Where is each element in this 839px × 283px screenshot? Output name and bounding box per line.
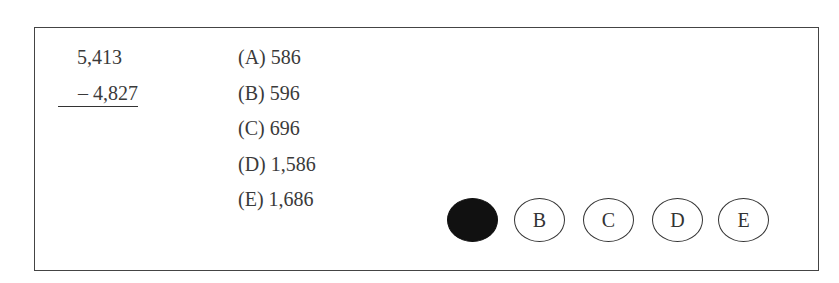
answer-bubble-a[interactable]: A: [447, 198, 498, 242]
choice-b: (B) 596: [238, 81, 300, 105]
question-box: [34, 27, 819, 271]
answer-bubble-b[interactable]: B: [514, 198, 565, 242]
choice-c: (C) 696: [238, 116, 300, 140]
minuend: 5,413: [77, 45, 122, 69]
answer-bubble-e[interactable]: E: [718, 198, 769, 242]
answer-bubble-c[interactable]: C: [583, 198, 634, 242]
choice-d: (D) 1,586: [238, 152, 316, 176]
choice-e: (E) 1,686: [238, 187, 314, 211]
answer-bubble-d[interactable]: D: [652, 198, 703, 242]
subtrahend: – 4,827: [58, 81, 138, 107]
choice-a: (A) 586: [238, 45, 301, 69]
